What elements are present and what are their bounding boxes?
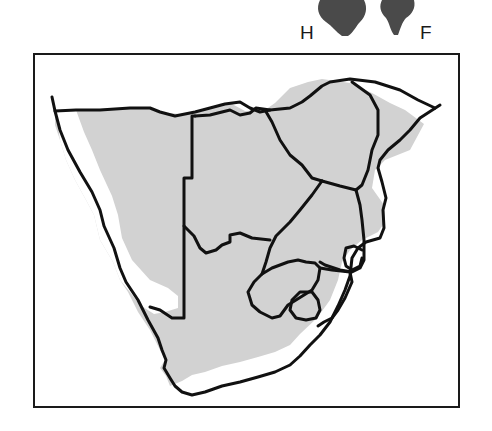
distribution-map — [0, 0, 492, 431]
